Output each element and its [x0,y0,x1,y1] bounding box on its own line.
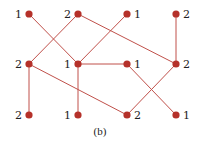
graph-node: 1 [64,109,82,122]
node-label: 1 [134,8,141,21]
node-label: 2 [15,109,22,122]
node-label: 1 [183,109,190,122]
node-dot [123,111,130,118]
node-label: 2 [64,8,71,21]
graph-node: 1 [172,109,190,122]
node-layer: 121221122121 [15,8,190,122]
figure-caption: (b) [94,125,107,138]
node-dot [172,10,179,17]
node-dot [74,60,81,67]
node-label: 1 [134,58,141,71]
graph-node: 1 [64,58,82,71]
node-label: 1 [64,58,71,71]
edge-layer [29,14,176,115]
node-dot [74,10,81,17]
graph-node: 2 [172,58,190,71]
graph-diagram: 121221122121 (b) [0,0,200,146]
graph-edge [78,14,176,64]
node-dot [172,60,179,67]
graph-edge [78,14,127,64]
node-dot [123,60,130,67]
node-label: 1 [15,8,22,21]
node-dot [25,60,32,67]
node-label: 2 [134,109,141,122]
node-label: 2 [15,58,22,71]
node-dot [74,111,81,118]
node-dot [25,10,32,17]
node-label: 1 [64,109,71,122]
node-dot [172,111,179,118]
node-dot [25,111,32,118]
graph-node: 2 [172,8,190,21]
graph-node: 2 [123,109,141,122]
graph-node: 1 [123,8,141,21]
node-label: 2 [183,8,190,21]
node-dot [123,10,130,17]
graph-node: 2 [15,109,33,122]
node-label: 2 [183,58,190,71]
graph-node: 2 [15,58,33,71]
graph-node: 1 [15,8,33,21]
